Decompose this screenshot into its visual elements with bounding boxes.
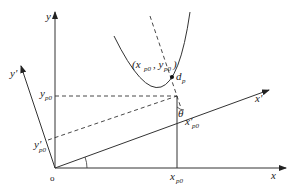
y-prime-axis xyxy=(21,66,55,168)
svg-text:p0: p0 xyxy=(175,177,184,185)
x-p0-label: x p0 xyxy=(169,170,184,185)
y-prime-p0-dashed-line xyxy=(48,96,177,140)
svg-text:p0: p0 xyxy=(191,122,200,130)
origin-label: o xyxy=(50,173,55,183)
svg-text:p0: p0 xyxy=(44,94,53,102)
focus-point xyxy=(170,75,174,79)
theta-label: θ xyxy=(178,107,184,119)
svg-text:p: p xyxy=(181,77,186,85)
diagram-canvas: y x x' y' o y p0 y' p0 x p0 x' p0 (x p0 … xyxy=(0,0,294,190)
svg-text:, y: , y xyxy=(153,58,164,70)
svg-text:x: x xyxy=(169,170,175,182)
focus-label: d p xyxy=(176,70,186,85)
svg-text:p0: p0 xyxy=(163,65,172,73)
svg-text:p0: p0 xyxy=(38,146,47,154)
svg-text:(x: (x xyxy=(132,58,141,71)
svg-text:p0: p0 xyxy=(143,65,152,73)
x-axis-label: x xyxy=(270,169,276,181)
x-prime-axis-label: x' xyxy=(254,92,263,104)
tangent-point-label: (x p0 , y p0 ) xyxy=(132,58,177,73)
y-p0-label: y p0 xyxy=(39,87,53,102)
rotation-angle-arc xyxy=(85,157,87,168)
x-prime-axis xyxy=(55,90,269,168)
y-prime-axis-label: y' xyxy=(9,67,18,79)
y-prime-p0-label: y' p0 xyxy=(33,138,47,154)
y-axis-label: y xyxy=(45,10,51,22)
x-prime-p0-label: x' p0 xyxy=(184,115,200,130)
